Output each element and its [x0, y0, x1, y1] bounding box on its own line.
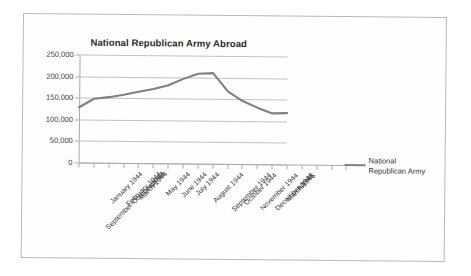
y-axis-label: 200,000	[46, 71, 73, 80]
x-axis-ticks	[79, 164, 347, 167]
x-tick	[79, 164, 80, 168]
x-tick	[287, 166, 288, 170]
x-tick	[197, 165, 198, 169]
legend-label-national-republican-army: National Republican Army	[368, 156, 442, 177]
plot-frame: National Republican Army Abroad 050,0001…	[22, 14, 448, 263]
x-tick	[227, 165, 228, 169]
x-tick	[212, 165, 213, 169]
x-tick	[242, 165, 243, 169]
legend-label-line2: Republican Army	[368, 166, 425, 176]
legend-label-line1: National	[369, 156, 397, 165]
x-tick	[301, 166, 302, 170]
x-tick	[138, 164, 139, 168]
x-tick	[331, 166, 332, 170]
y-axis-label: 150,000	[46, 93, 73, 102]
chart-object: National Republican Army Abroad 050,0001…	[21, 13, 447, 262]
y-axis-label: 100,000	[46, 115, 73, 124]
y-axis-label: 0	[68, 158, 72, 167]
chart-legend: National Republican Army	[345, 156, 445, 157]
x-tick	[123, 164, 124, 168]
x-tick	[272, 165, 273, 169]
legend-swatch-national-republican-army	[345, 164, 366, 166]
x-tick	[108, 164, 109, 168]
x-tick	[257, 165, 258, 169]
x-tick	[183, 165, 184, 169]
x-tick	[93, 164, 94, 168]
x-tick	[168, 164, 169, 168]
y-axis-label: 250,000	[46, 50, 73, 59]
scanned-page: National Republican Army Abroad 050,0001…	[0, 0, 471, 276]
x-tick	[153, 164, 154, 168]
x-tick	[316, 166, 317, 170]
chart-title: National Republican Army Abroad	[24, 36, 314, 50]
y-axis-label: 50,000	[50, 136, 73, 145]
x-tick	[346, 166, 347, 170]
series-line-national-republican-army	[79, 55, 348, 166]
